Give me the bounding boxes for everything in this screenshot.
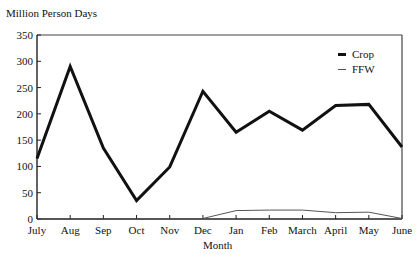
- y-tick-label: 100: [17, 160, 34, 172]
- y-tick-label: 250: [17, 82, 34, 94]
- legend-item-crop: Crop: [338, 47, 375, 62]
- legend-item-ffw: FFW: [338, 62, 375, 77]
- x-tick-label: March: [288, 224, 317, 236]
- x-tick-label: Aug: [61, 224, 80, 236]
- y-tick-label: 50: [22, 187, 34, 199]
- legend: Crop FFW: [338, 47, 375, 77]
- x-tick-label: Nov: [160, 224, 179, 236]
- x-tick-label: May: [359, 224, 380, 236]
- ffw-swatch-icon: [338, 69, 346, 70]
- series-line-crop: [37, 67, 402, 201]
- x-tick-label: Feb: [261, 224, 278, 236]
- x-tick-label: July: [28, 224, 47, 236]
- x-axis-title: Month: [203, 239, 232, 251]
- y-tick-label: 350: [17, 29, 34, 41]
- x-tick-label: Dec: [194, 224, 212, 236]
- x-tick-label: Jan: [229, 224, 244, 236]
- x-tick-label: Oct: [129, 224, 145, 236]
- x-tick-label: Sep: [95, 224, 112, 236]
- series-line-ffw: [37, 210, 402, 219]
- x-tick-label: June: [392, 224, 412, 236]
- line-chart: 050100150200250300350JulyAugSepOctNovDec…: [0, 0, 419, 263]
- y-tick-label: 200: [17, 108, 34, 120]
- crop-swatch-icon: [338, 53, 346, 56]
- x-tick-label: April: [324, 224, 347, 236]
- y-tick-label: 150: [17, 134, 34, 146]
- legend-label-crop: Crop: [352, 47, 374, 62]
- y-tick-label: 300: [17, 55, 34, 67]
- legend-label-ffw: FFW: [352, 62, 375, 77]
